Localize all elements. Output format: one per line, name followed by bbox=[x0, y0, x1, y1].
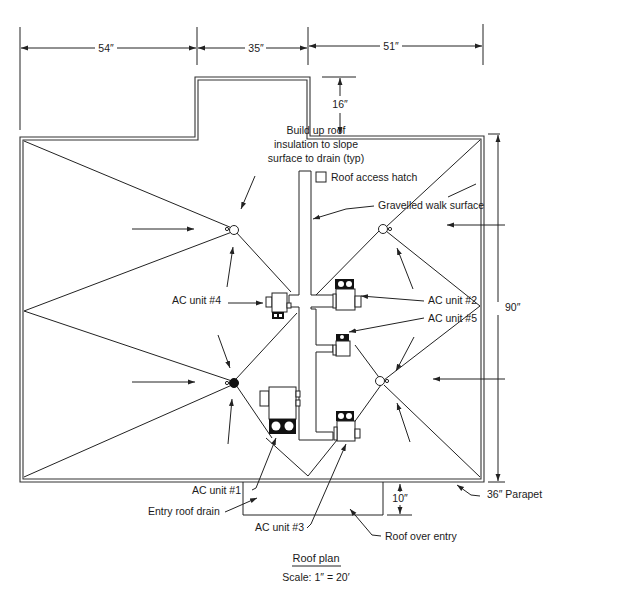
drawing-title: Roof plan bbox=[292, 552, 339, 564]
svg-text:Build up roof: Build up roof bbox=[287, 124, 346, 136]
label-roof-access-hatch: Roof access hatch bbox=[331, 171, 418, 183]
slope-lines bbox=[24, 140, 480, 477]
drain-icon bbox=[230, 379, 239, 388]
drain-icon bbox=[379, 225, 388, 234]
label-parapet: 36″ Parapet bbox=[487, 488, 542, 500]
dim-90: 90″ bbox=[505, 301, 521, 313]
drain-icon bbox=[376, 377, 385, 386]
label-ac-unit-3: AC unit #3 bbox=[255, 521, 304, 533]
label-entry-roof-drain: Entry roof drain bbox=[148, 505, 220, 517]
dim-10: 10″ bbox=[392, 492, 408, 504]
ac-unit-2-icon bbox=[333, 279, 361, 310]
dim-16: 16″ bbox=[332, 98, 348, 110]
label-ac-unit-4: AC unit #4 bbox=[172, 294, 221, 306]
label-ac-unit-1: AC unit #1 bbox=[192, 484, 241, 496]
dim-51: 51″ bbox=[383, 40, 399, 52]
ac-unit-5-icon bbox=[333, 334, 350, 356]
dim-54: 54″ bbox=[98, 42, 114, 54]
label-roof-over-entry: Roof over entry bbox=[385, 530, 458, 542]
label-ac-unit-2: AC unit #2 bbox=[428, 294, 477, 306]
svg-text:surface to drain (typ): surface to drain (typ) bbox=[268, 152, 364, 164]
drawing-scale: Scale: 1″ = 20′ bbox=[282, 571, 349, 583]
ac-unit-4-icon bbox=[266, 293, 291, 319]
ac-unit-1-icon bbox=[260, 387, 300, 434]
label-ac-unit-5: AC unit #5 bbox=[428, 312, 477, 324]
dim-35: 35″ bbox=[248, 42, 264, 54]
label-gravelled-walk: Gravelled walk surface bbox=[378, 199, 484, 211]
height-dimension: 90″ bbox=[488, 134, 521, 482]
roof-plan-drawing: 54″ 35″ 51″ 16″ 90″ bbox=[0, 0, 633, 598]
drain-icon bbox=[230, 226, 239, 235]
roof-access-hatch-icon bbox=[316, 172, 326, 182]
parapet-outline bbox=[20, 77, 484, 482]
slope-arrows bbox=[132, 176, 505, 444]
ac-unit-3-icon bbox=[334, 411, 360, 441]
insulation-note: Build up roof insulation to slope surfac… bbox=[268, 124, 364, 164]
svg-text:insulation to slope: insulation to slope bbox=[274, 138, 358, 150]
